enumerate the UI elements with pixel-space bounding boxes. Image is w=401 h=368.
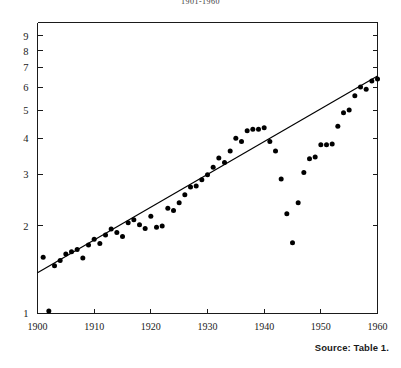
data-point	[216, 156, 221, 161]
data-point	[369, 78, 374, 83]
data-point	[290, 240, 295, 245]
data-point	[69, 249, 74, 254]
y-tick-label: 2	[23, 221, 28, 232]
data-point	[364, 87, 369, 92]
data-point	[137, 222, 142, 227]
y-tick-label: 8	[23, 46, 28, 57]
x-tick-label: 1910	[84, 321, 104, 332]
y-tick-label: 1	[23, 308, 28, 319]
data-point	[154, 225, 159, 230]
data-point	[233, 136, 238, 141]
y-tick-label: 6	[23, 82, 28, 93]
data-point	[347, 108, 352, 113]
data-point	[352, 93, 357, 98]
data-point	[279, 176, 284, 181]
data-point	[109, 227, 114, 232]
data-point	[273, 148, 278, 153]
data-point	[318, 142, 323, 147]
y-tick-label: 9	[23, 31, 28, 42]
data-point	[341, 110, 346, 115]
data-point	[41, 255, 46, 260]
data-point	[97, 241, 102, 246]
data-point	[63, 252, 68, 257]
data-point	[205, 172, 210, 177]
data-point	[358, 85, 363, 90]
x-tick-label: 1930	[198, 321, 218, 332]
x-axis-labels: 1900191019201930194019501960	[28, 321, 388, 332]
data-point	[245, 128, 250, 133]
data-point	[177, 200, 182, 205]
data-point	[114, 230, 119, 235]
data-point	[211, 165, 216, 170]
y-tick-label: 3	[23, 169, 28, 180]
x-tick-label: 1940	[254, 321, 274, 332]
y-tick-label: 7	[23, 62, 28, 73]
data-point	[335, 124, 340, 129]
data-point	[256, 127, 261, 132]
data-point	[120, 234, 125, 239]
data-point	[301, 170, 306, 175]
scatter-plot: 123456789 1900191019201930194019501960	[0, 0, 401, 368]
x-tick-label: 1920	[141, 321, 161, 332]
data-point	[182, 192, 187, 197]
data-points	[41, 76, 380, 313]
data-point	[46, 308, 51, 313]
data-point	[222, 160, 227, 165]
y-tick-label: 4	[23, 133, 29, 144]
data-point	[143, 226, 148, 231]
x-axis-ticks	[94, 309, 321, 314]
data-point	[126, 220, 131, 225]
data-point	[188, 185, 193, 190]
axes-frame	[38, 23, 378, 314]
data-point	[375, 76, 380, 81]
data-point	[160, 223, 165, 228]
data-point	[324, 142, 329, 147]
source-note: Source: Table 1.	[315, 342, 389, 353]
data-point	[330, 142, 335, 147]
data-point	[313, 154, 318, 159]
data-point	[92, 237, 97, 242]
data-point	[199, 177, 204, 182]
data-point	[52, 263, 57, 268]
data-point	[267, 139, 272, 144]
data-point	[75, 247, 80, 252]
data-point	[131, 217, 136, 222]
data-point	[262, 125, 267, 130]
data-point	[296, 200, 301, 205]
data-point	[148, 214, 153, 219]
y-axis-labels: 123456789	[23, 31, 29, 320]
data-point	[307, 156, 312, 161]
data-point	[58, 258, 63, 263]
data-point	[250, 127, 255, 132]
x-tick-label: 1950	[311, 321, 331, 332]
data-point	[171, 208, 176, 213]
chart-page: 1901-1960 123456789 19001910192019301940…	[0, 0, 401, 368]
data-point	[103, 233, 108, 238]
data-point	[239, 139, 244, 144]
data-point	[165, 206, 170, 211]
y-tick-label: 5	[23, 105, 28, 116]
data-point	[228, 148, 233, 153]
data-point	[80, 256, 85, 261]
x-tick-label: 1900	[28, 321, 48, 332]
data-point	[284, 211, 289, 216]
data-point	[194, 184, 199, 189]
x-tick-label: 1960	[368, 321, 388, 332]
data-point	[86, 242, 91, 247]
